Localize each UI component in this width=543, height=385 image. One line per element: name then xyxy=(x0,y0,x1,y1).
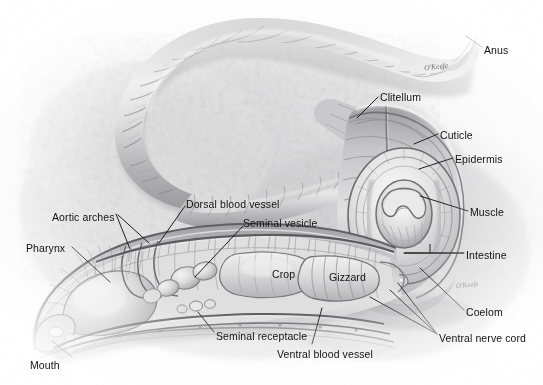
label-crop: Crop xyxy=(272,269,295,280)
label-anus: Anus xyxy=(484,45,508,56)
label-intestine: Intestine xyxy=(466,250,507,261)
label-ventral-blood-vessel: Ventral blood vessel xyxy=(277,349,373,360)
label-muscle: Muscle xyxy=(470,207,504,218)
label-dorsal-blood-vessel: Dorsal blood vessel xyxy=(186,199,280,210)
paper-vignette xyxy=(0,0,543,385)
label-ventral-nerve-cord: Ventral nerve cord xyxy=(439,333,526,344)
label-epidermis: Epidermis xyxy=(455,154,503,165)
label-clitellum: Clitellum xyxy=(380,92,421,103)
earthworm-anatomy-figure: AnusClitellumCuticleEpidermisMuscleIntes… xyxy=(0,0,543,385)
label-gizzard: Gizzard xyxy=(329,272,366,283)
label-seminal-vesicle: Seminal vesicle xyxy=(243,218,317,229)
label-coelom: Coelom xyxy=(466,307,503,318)
label-mouth: Mouth xyxy=(30,360,60,371)
label-seminal-receptacle: Seminal receptacle xyxy=(216,331,307,342)
label-aortic-arches: Aortic arches xyxy=(52,212,115,223)
label-cuticle: Cuticle xyxy=(440,130,473,141)
label-pharynx: Pharynx xyxy=(26,243,65,254)
